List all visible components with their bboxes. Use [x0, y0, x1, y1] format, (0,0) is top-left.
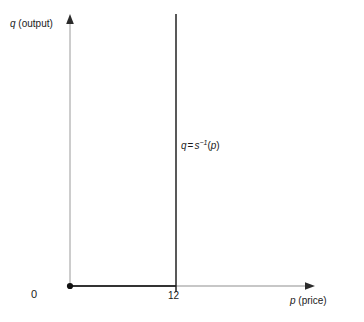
origin-label: 0	[31, 289, 37, 300]
y-axis-label: q (output)	[10, 19, 53, 29]
x-axis-label-words: (price)	[298, 295, 326, 306]
supply-curve-figure: q (output) p (price) 0 12 q=s−1(p)	[0, 0, 364, 322]
y-axis-label-words: (output)	[18, 18, 52, 29]
chart-canvas	[0, 0, 364, 322]
supply-label-paren-close: )	[216, 140, 219, 151]
x-axis-arrowhead	[305, 282, 315, 289]
supply-curve-label: q=s−1(p)	[181, 139, 220, 151]
y-axis-arrowhead	[66, 14, 74, 24]
x-axis-label-symbol: p	[290, 295, 296, 306]
y-axis-label-symbol: q	[10, 18, 16, 29]
x-axis-label: p (price)	[290, 296, 327, 306]
x-axis-tick-label: 12	[168, 291, 179, 301]
supply-label-lhs: q	[181, 140, 187, 151]
origin-dot	[67, 283, 73, 289]
